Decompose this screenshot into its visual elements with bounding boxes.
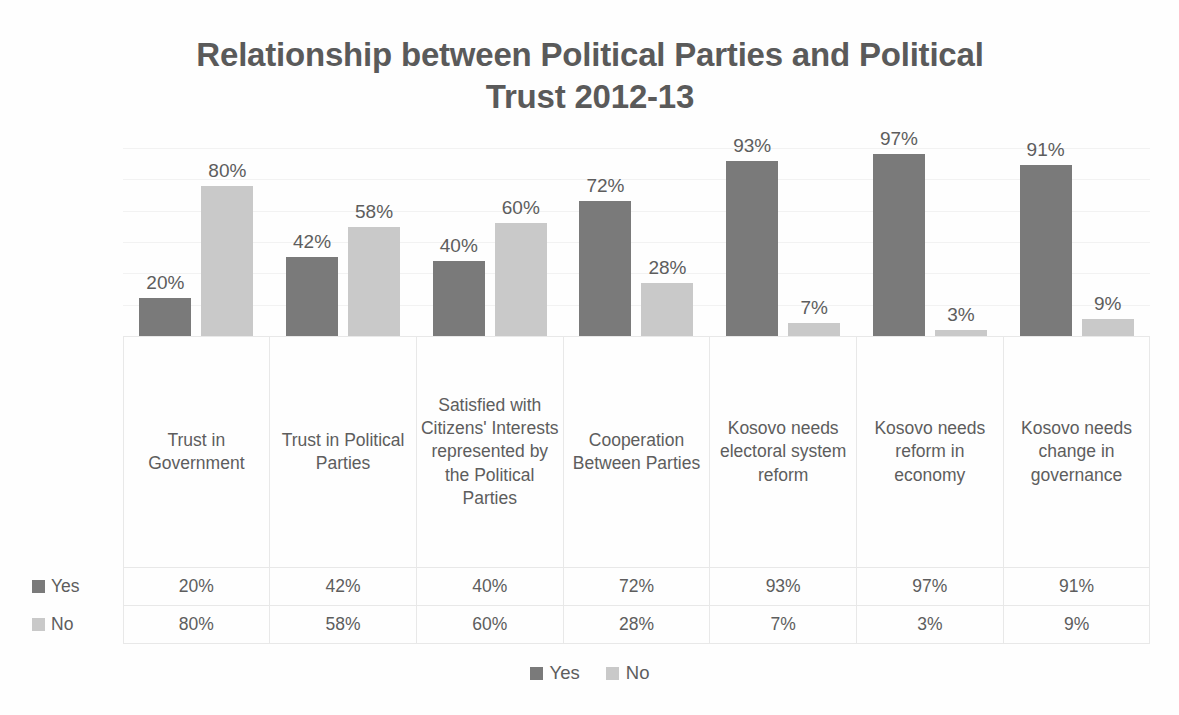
bar-group-bars: 20%80% (123, 148, 270, 336)
legend-swatch-yes-icon (530, 667, 543, 680)
table-row: Yes 20%42%40%72%93%97%91% (26, 568, 1150, 606)
bar-no[interactable] (201, 186, 253, 336)
table-cell: 93% (710, 568, 857, 606)
bar-yes[interactable] (286, 257, 338, 336)
legend-item-yes[interactable]: Yes (530, 662, 580, 684)
bar-group: 93%7% (710, 148, 857, 336)
table-cell: 7% (710, 606, 857, 644)
bar-slot: 9% (1082, 148, 1134, 336)
bar-yes[interactable] (433, 261, 485, 336)
table-cell: 9% (1003, 606, 1150, 644)
category-row-header (26, 337, 123, 568)
category-label-row: Trust in GovernmentTrust in Political Pa… (26, 337, 1150, 568)
table-cell: 40% (416, 568, 563, 606)
table-cell: 97% (857, 568, 1004, 606)
bar-group: 72%28% (563, 148, 710, 336)
bar-group: 91%9% (1003, 148, 1150, 336)
bar-value-label: 80% (182, 160, 272, 182)
bar-value-label: 60% (476, 197, 566, 219)
bar-value-label: 91% (1001, 139, 1091, 161)
bar-slot: 58% (348, 148, 400, 336)
bar-group: 42%58% (270, 148, 417, 336)
table-cell: 58% (270, 606, 417, 644)
chart-title-line-2: Trust 2012-13 (150, 76, 1030, 118)
bar-group-bars: 42%58% (270, 148, 417, 336)
series-row-label-no: No (51, 614, 73, 634)
bar-value-label: 20% (120, 272, 210, 294)
category-label-cell: Cooperation Between Parties (563, 337, 710, 568)
bar-slot: 7% (788, 148, 840, 336)
category-label-cell: Kosovo needs reform in economy (857, 337, 1004, 568)
bar-no[interactable] (348, 227, 400, 336)
bar-slot: 72% (579, 148, 631, 336)
bar-slot: 60% (495, 148, 547, 336)
bar-group-bars: 93%7% (710, 148, 857, 336)
data-table: Trust in GovernmentTrust in Political Pa… (26, 336, 1150, 644)
bar-value-label: 3% (916, 304, 1006, 326)
series-swatch-no-icon (32, 618, 45, 631)
series-row-header-no: No (26, 606, 123, 644)
plot-area: 20%80%42%58%40%60%72%28%93%7%97%3%91%9% (123, 148, 1150, 336)
table-cell: 60% (416, 606, 563, 644)
bar-slot: 42% (286, 148, 338, 336)
category-label-cell: Satisfied with Citizens' Interests repre… (416, 337, 563, 568)
series-row-label-yes: Yes (51, 576, 80, 596)
table-cell: 3% (857, 606, 1004, 644)
table-cell: 28% (563, 606, 710, 644)
bar-no[interactable] (788, 323, 840, 336)
bar-value-label: 9% (1063, 293, 1153, 315)
bar-group-bars: 40%60% (416, 148, 563, 336)
table-cell: 80% (123, 606, 270, 644)
table-cell: 42% (270, 568, 417, 606)
bar-group-bars: 97%3% (857, 148, 1004, 336)
bar-value-label: 28% (622, 257, 712, 279)
series-row-header-yes: Yes (26, 568, 123, 606)
bar-group: 40%60% (416, 148, 563, 336)
bar-no[interactable] (1082, 319, 1134, 336)
bar-slot: 28% (641, 148, 693, 336)
bar-group: 97%3% (857, 148, 1004, 336)
category-label-cell: Trust in Political Parties (270, 337, 417, 568)
bar-slot: 40% (433, 148, 485, 336)
category-label-cell: Kosovo needs change in governance (1003, 337, 1150, 568)
table-cell: 20% (123, 568, 270, 606)
category-label-cell: Kosovo needs electoral system reform (710, 337, 857, 568)
bar-group-bars: 72%28% (563, 148, 710, 336)
bar-no[interactable] (495, 223, 547, 336)
legend-label-no: No (626, 662, 650, 684)
chart-title-line-1: Relationship between Political Parties a… (150, 34, 1030, 76)
legend-swatch-no-icon (606, 667, 619, 680)
series-swatch-yes-icon (32, 580, 45, 593)
bar-value-label: 72% (560, 175, 650, 197)
bar-yes[interactable] (139, 298, 191, 336)
bar-value-label: 58% (329, 201, 419, 223)
chart-legend: Yes No (0, 662, 1179, 684)
bar-group-bars: 91%9% (1003, 148, 1150, 336)
bar-value-label: 7% (769, 297, 859, 319)
table-row: No 80%58%60%28%7%3%9% (26, 606, 1150, 644)
bar-value-label: 97% (854, 128, 944, 150)
bar-no[interactable] (641, 283, 693, 336)
legend-item-no[interactable]: No (606, 662, 650, 684)
bar-value-label: 40% (414, 235, 504, 257)
chart-title: Relationship between Political Parties a… (150, 34, 1030, 118)
bar-slot: 3% (935, 148, 987, 336)
table-cell: 91% (1003, 568, 1150, 606)
legend-label-yes: Yes (550, 662, 580, 684)
category-label-cell: Trust in Government (123, 337, 270, 568)
bar-slot: 80% (201, 148, 253, 336)
bar-group: 20%80% (123, 148, 270, 336)
bar-value-label: 93% (707, 135, 797, 157)
chart-container: Relationship between Political Parties a… (0, 0, 1179, 715)
table-cell: 72% (563, 568, 710, 606)
bar-value-label: 42% (267, 231, 357, 253)
